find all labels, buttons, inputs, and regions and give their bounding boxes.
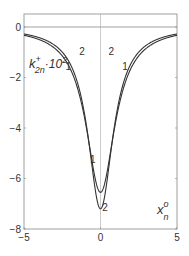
x-tick-label: 0 — [98, 232, 104, 243]
x-tick-label: −5 — [18, 232, 30, 243]
y-tick-label: −6 — [10, 173, 22, 184]
curve-label: 2 — [108, 46, 114, 57]
x-tick-label: 5 — [174, 232, 180, 243]
x-axis-label: xon — [156, 199, 169, 222]
curve-label: 2 — [102, 202, 108, 213]
curve-label: 1 — [122, 61, 128, 72]
curve-labels: 122112 — [66, 46, 129, 214]
y-tick-label: −4 — [10, 123, 22, 134]
y-axis-label: k+2n·102 — [29, 54, 67, 75]
curve-label: 2 — [79, 46, 85, 57]
y-tick-label: 0 — [15, 22, 21, 33]
y-tick-label: −2 — [10, 72, 22, 83]
curve-label: 1 — [90, 154, 96, 165]
chart: 0−2−4−6−8 −505 122112 k+2n·102 xon — [0, 0, 189, 256]
